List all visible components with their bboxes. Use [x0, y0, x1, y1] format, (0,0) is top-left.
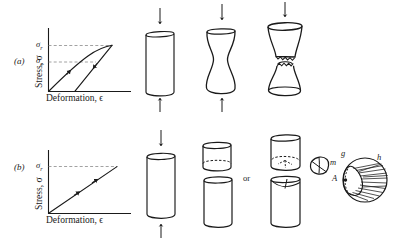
row-tag-a: (a) [14, 56, 25, 66]
specimen-a-necked [206, 4, 235, 112]
sigma-subscript: r [40, 45, 42, 51]
chart-b-y-axis-label: Stress, σ [34, 177, 44, 210]
chart-b-elastic-line [49, 167, 117, 213]
chart-a-axes [49, 28, 132, 92]
specimen-b-flat-fracture [203, 142, 232, 227]
chart-a-x-axis-label: Deformation, ϵ [46, 93, 103, 103]
chart-a-tick-sigma-r: σr [36, 39, 43, 51]
surface-label-h: h [377, 152, 381, 162]
surface-label-g: g [341, 148, 345, 158]
specimen-b-angled-fracture [271, 135, 329, 227]
surface-label-A: A [332, 173, 337, 183]
chart-b-tick-sigma-r: σr [36, 160, 43, 172]
or-connector-label: or [243, 173, 250, 183]
specimen-a-cylinder [146, 8, 174, 112]
chart-a-tick-sigma-e: σe [36, 55, 43, 67]
surface-label-m: m [330, 157, 336, 167]
specimen-b-fracture-surface [343, 158, 388, 202]
sigma-subscript: r [40, 166, 42, 172]
row-tag-b: (b) [14, 162, 25, 172]
fracture-figure [0, 0, 395, 244]
chart-b-axes [49, 150, 132, 214]
sigma-subscript: e [40, 61, 43, 67]
specimen-b-cylinder [147, 130, 175, 238]
specimen-a-cup-cone [268, 2, 302, 96]
chart-b-x-axis-label: Deformation, ϵ [46, 215, 103, 225]
